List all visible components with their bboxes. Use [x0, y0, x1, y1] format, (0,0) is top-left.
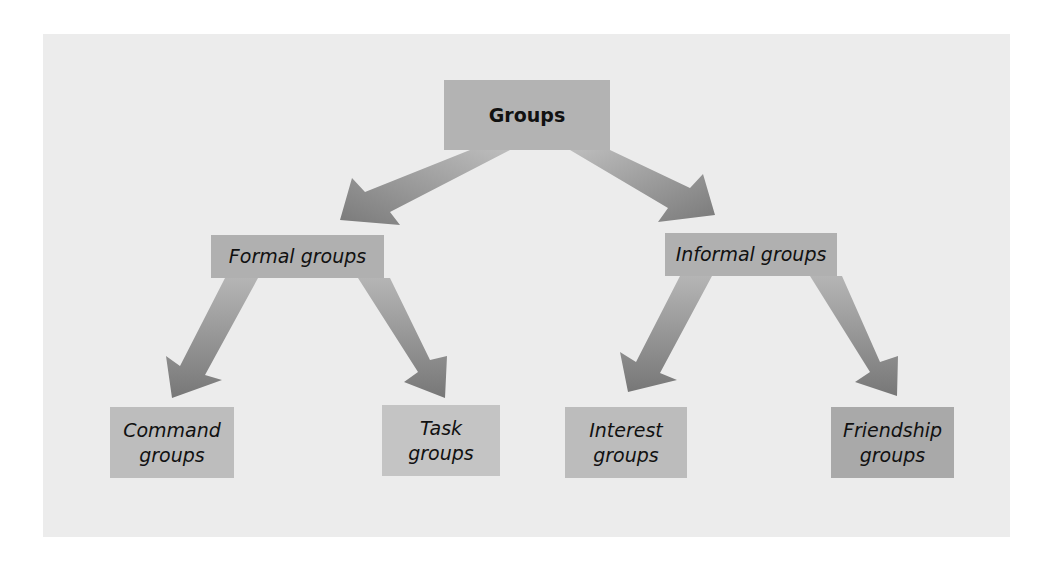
node-informal-groups-label: Informal groups [676, 242, 827, 267]
node-formal-groups-label: Formal groups [229, 244, 366, 269]
node-friendship-groups: Friendship groups [831, 407, 954, 478]
arrow-to-friendship-icon [810, 276, 898, 396]
node-command-line2: groups [123, 443, 221, 468]
node-task-groups: Task groups [382, 405, 500, 476]
arrow-to-interest-icon [620, 276, 712, 392]
arrow-to-command-icon [166, 278, 258, 398]
node-informal-groups: Informal groups [665, 233, 837, 276]
arrow-to-task-icon [358, 278, 447, 398]
node-command-line1: Command [123, 418, 221, 443]
node-interest-groups: Interest groups [565, 407, 687, 478]
node-command-groups: Command groups [110, 407, 234, 478]
arrow-to-formal-icon [340, 150, 510, 225]
node-friendship-line1: Friendship [843, 418, 942, 443]
node-task-line1: Task [408, 416, 474, 441]
arrow-to-informal-icon [570, 150, 715, 222]
node-formal-groups: Formal groups [211, 235, 384, 278]
node-groups: Groups [444, 80, 610, 150]
node-task-line2: groups [408, 441, 474, 466]
node-groups-label: Groups [489, 103, 565, 128]
node-interest-line2: groups [589, 443, 663, 468]
node-interest-line1: Interest [589, 418, 663, 443]
node-friendship-line2: groups [843, 443, 942, 468]
